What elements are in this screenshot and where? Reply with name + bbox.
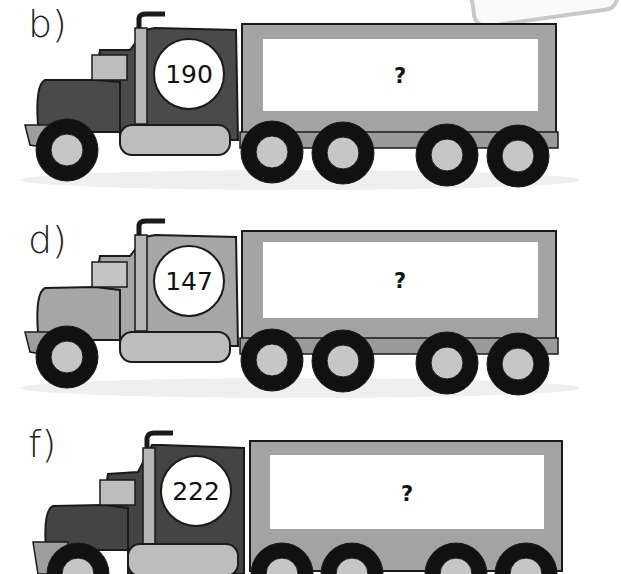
truck-problem-f: f) 222 ? [0, 410, 579, 574]
truck-problem-d: d) 147 ? [0, 200, 579, 410]
cab-number: 190 [165, 60, 213, 89]
truck-illustration: 147 ? [0, 200, 579, 410]
truck-problem-b: b) 190 ? [0, 0, 579, 200]
truck-illustration: 222 ? [0, 410, 579, 574]
cab-number: 147 [165, 267, 213, 296]
trailer-question-mark: ? [394, 269, 406, 293]
cab-number: 222 [172, 477, 220, 506]
trailer-question-mark: ? [401, 482, 413, 506]
trailer-question-mark: ? [394, 64, 406, 88]
truck-illustration: 190 ? [0, 0, 579, 200]
